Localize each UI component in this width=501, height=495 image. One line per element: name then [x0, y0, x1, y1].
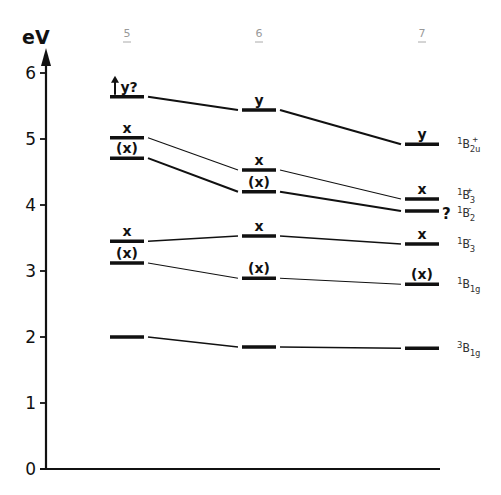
level-annotation: (x) — [116, 140, 138, 156]
state-label: 1B1g — [457, 276, 481, 294]
y-tick-label: 4 — [25, 195, 36, 215]
connector-line — [148, 236, 238, 241]
energy-levels: y?x(x)x(x)yx(x)x(x)yx?x(x) — [110, 76, 451, 348]
connector-line — [148, 138, 238, 170]
y-tick-label: 0 — [25, 459, 36, 479]
y-axis-arrow-icon — [41, 48, 51, 66]
level-annotation: (x) — [248, 174, 270, 190]
state-labels: 1B2u+1B3+1B2-1B3-1B1g3B1g — [457, 134, 481, 358]
level-annotation: x — [122, 223, 131, 239]
connector-line — [280, 347, 401, 348]
column-labels: 567 — [123, 27, 426, 42]
state-label: 1B3- — [457, 234, 475, 254]
level-annotation: x — [417, 181, 426, 197]
state-label: 1B2u+ — [457, 134, 481, 154]
y-tick-label: 3 — [25, 261, 36, 281]
up-arrowhead-icon — [111, 76, 119, 83]
level-annotation: (x) — [411, 266, 433, 282]
level-annotation: x — [254, 218, 263, 234]
connector-line — [148, 263, 238, 278]
connector-lines — [148, 97, 401, 348]
level-annotation: y? — [120, 79, 137, 95]
energy-level-diagram: eV0123456 567 y?x(x)x(x)yx(x)x(x)yx?x(x)… — [0, 0, 501, 495]
column-label: 5 — [124, 27, 131, 40]
connector-line — [148, 97, 238, 110]
uncertain-marker: ? — [442, 205, 451, 223]
y-tick-label: 1 — [25, 393, 36, 413]
state-label: 3B1g — [457, 340, 481, 358]
column-label: 6 — [256, 27, 263, 40]
state-label: 1B2- — [457, 203, 475, 223]
connector-line — [148, 337, 238, 347]
y-tick-label: 2 — [25, 327, 36, 347]
level-annotation: (x) — [248, 260, 270, 276]
column-label: 7 — [419, 27, 426, 40]
y-tick-label: 5 — [25, 129, 36, 149]
level-annotation: y — [417, 126, 426, 142]
connector-line — [280, 278, 401, 284]
level-annotation: x — [254, 152, 263, 168]
y-tick-label: 6 — [25, 63, 36, 83]
connector-line — [280, 110, 401, 144]
level-annotation: (x) — [116, 245, 138, 261]
level-annotation: y — [254, 92, 263, 108]
connector-line — [148, 158, 238, 192]
axes: eV0123456 — [22, 26, 440, 479]
connector-line — [280, 236, 401, 244]
level-annotation: x — [417, 226, 426, 242]
y-axis-unit-label: eV — [22, 26, 50, 48]
level-annotation: x — [122, 120, 131, 136]
